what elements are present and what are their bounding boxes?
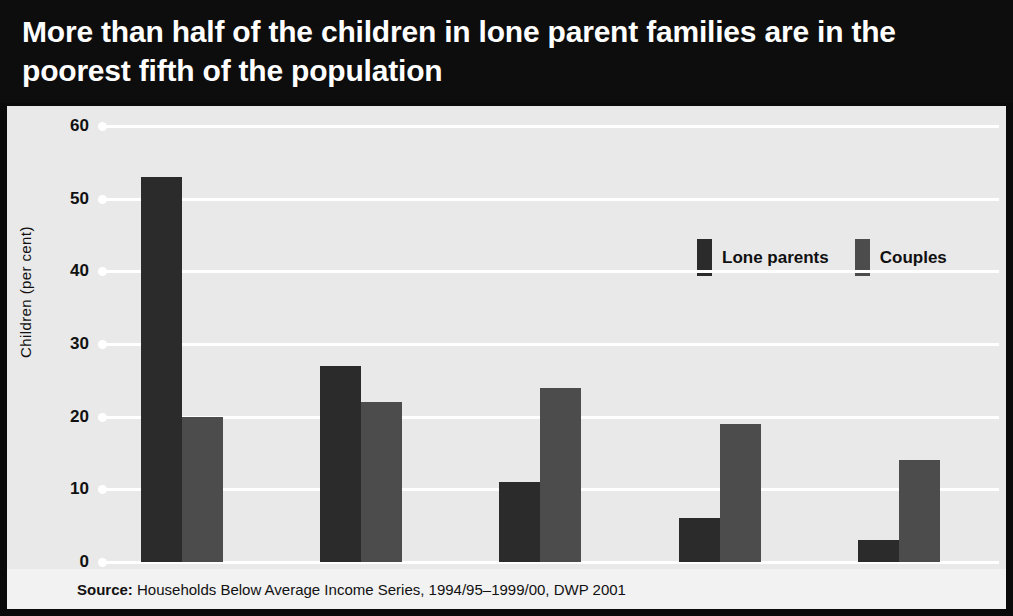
source-citation: Households Below Average Income Series, … (133, 581, 626, 598)
bar-lone-parents-4[interactable] (679, 518, 720, 562)
chart-panel: Lone parents Couples Children (per cent)… (7, 106, 1006, 609)
y-tick-label-60: 60 (70, 116, 89, 136)
figure-root: More than half of the children in lone p… (0, 0, 1013, 616)
bar-couples-4[interactable] (720, 424, 761, 562)
title-banner: More than half of the children in lone p… (0, 0, 1013, 103)
bar-lone-parents-2[interactable] (320, 366, 361, 562)
y-tick-label-50: 50 (70, 189, 89, 209)
source-note: Source: Households Below Average Income … (7, 581, 626, 598)
y-axis-tick-labels: 0102030405060 (7, 126, 89, 562)
tick-dot-icon-50 (98, 195, 107, 204)
tick-dot-icon-10 (98, 485, 107, 494)
bar-couples-3[interactable] (540, 388, 581, 562)
bar-group-2 (320, 126, 402, 562)
tick-dot-icon-0 (98, 558, 107, 567)
source-label: Source: (77, 581, 133, 598)
y-tick-label-40: 40 (70, 261, 89, 281)
y-tick-label-20: 20 (70, 407, 89, 427)
bar-couples-5[interactable] (899, 460, 940, 562)
bar-group-4 (679, 126, 761, 562)
bar-lone-parents-3[interactable] (499, 482, 540, 562)
source-strip: Source: Households Below Average Income … (7, 569, 1006, 609)
bar-couples-2[interactable] (361, 402, 402, 562)
tick-dot-icon-20 (98, 413, 107, 422)
tick-dot-icon-40 (98, 267, 107, 276)
bar-lone-parents-1[interactable] (141, 177, 182, 562)
y-tick-label-30: 30 (70, 334, 89, 354)
plot-area: Poorest fifth2nd3rd4thRichest fifth (103, 126, 999, 562)
bar-group-5 (858, 126, 940, 562)
tick-dot-icon-30 (98, 340, 107, 349)
tick-dot-icon-60 (98, 122, 107, 131)
bar-group-1 (141, 126, 223, 562)
page-title: More than half of the children in lone p… (0, 12, 1013, 90)
bar-lone-parents-5[interactable] (858, 540, 899, 562)
bar-group-3 (499, 126, 581, 562)
y-tick-label-10: 10 (70, 479, 89, 499)
bar-couples-1[interactable] (182, 417, 223, 562)
